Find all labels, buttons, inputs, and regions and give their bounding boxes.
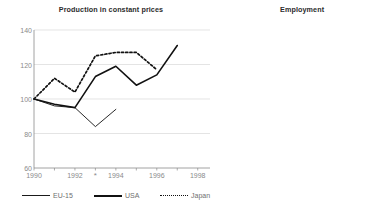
chart-title-employment: Employment [280,5,365,14]
chart-title-production: Production in constant prices [0,5,222,14]
x-tick-label: 1998 [190,172,206,179]
legend-label: EU-15 [53,192,73,199]
y-tick-label: 140 [20,27,32,34]
chart-sheet: Production in constant prices 1401201008… [0,0,365,212]
legend-label: USA [125,192,139,199]
legend-swatch-dotted [160,191,188,199]
legend-swatch-thick [94,191,122,199]
x-axis-annotation: * [94,171,97,180]
y-tick-label: 80 [24,130,32,137]
y-tick-label: 120 [20,61,32,68]
series-line-eu-15 [34,99,116,127]
legend-item-usa[interactable]: USA [94,191,139,199]
legend-item-eu-15[interactable]: EU-15 [22,191,73,199]
x-tick-label: 1996 [149,172,165,179]
plot-area-production [34,30,210,168]
y-tick-label: 100 [20,96,32,103]
chart-panel-employment: Employment 1401201008060 199019921994 EU… [222,0,365,212]
y-tick-label: 60 [24,165,32,172]
legend-swatch-thin [22,191,50,199]
y-axis-labels-production: 1401201008060 [8,30,32,168]
chart-panel-production: Production in constant prices 1401201008… [0,0,222,212]
x-tick-label: 1994 [108,172,124,179]
legend-production: EU-15USAJapan [22,191,217,207]
plot-svg-production [34,30,210,168]
legend-label: Japan [191,192,210,199]
legend-item-japan[interactable]: Japan [160,191,210,199]
x-axis-labels-production: 19901992199419961998* [34,172,210,184]
x-tick-label: 1990 [26,172,42,179]
x-tick-label: 1992 [67,172,83,179]
